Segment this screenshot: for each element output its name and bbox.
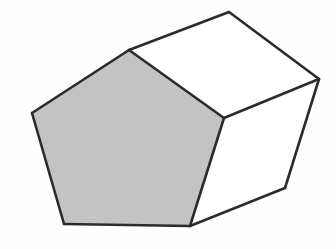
geometry-figure-canvas bbox=[0, 0, 336, 249]
pentagonal-prism-diagram bbox=[0, 0, 336, 249]
